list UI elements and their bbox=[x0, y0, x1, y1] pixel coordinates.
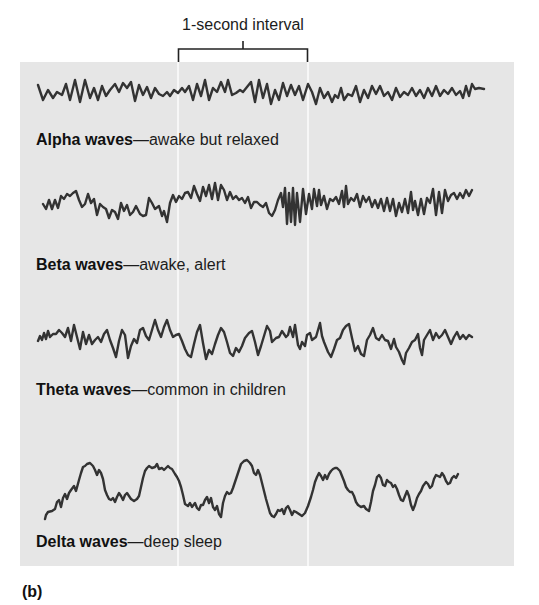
alpha-wave-description: —awake but relaxed bbox=[133, 131, 279, 148]
delta-wave-trace bbox=[45, 460, 458, 519]
beta-wave-label: Beta waves—awake, alert bbox=[36, 256, 225, 274]
beta-wave-description: —awake, alert bbox=[123, 256, 225, 273]
panel-letter: (b) bbox=[22, 583, 42, 601]
beta-wave-trace bbox=[43, 183, 472, 225]
theta-wave-name: Theta waves bbox=[36, 381, 131, 398]
theta-wave-trace bbox=[38, 320, 472, 364]
delta-wave-label: Delta waves—deep sleep bbox=[36, 533, 222, 551]
eeg-traces bbox=[0, 0, 539, 605]
theta-wave-label: Theta waves—common in children bbox=[36, 381, 286, 399]
alpha-wave-name: Alpha waves bbox=[36, 131, 133, 148]
delta-wave-description: —deep sleep bbox=[128, 533, 222, 550]
alpha-wave-trace bbox=[38, 80, 484, 104]
beta-wave-name: Beta waves bbox=[36, 256, 123, 273]
delta-wave-name: Delta waves bbox=[36, 533, 128, 550]
theta-wave-description: —common in children bbox=[131, 381, 286, 398]
alpha-wave-label: Alpha waves—awake but relaxed bbox=[36, 131, 279, 149]
